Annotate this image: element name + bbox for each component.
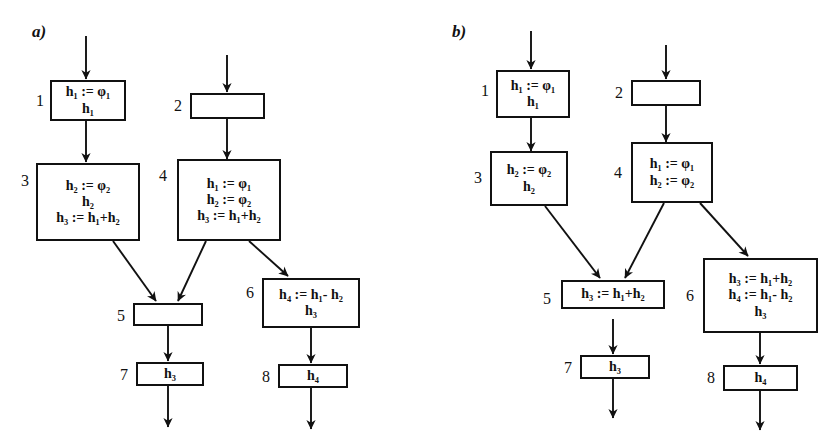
node-a4-line-2: h₂ := φ₂ xyxy=(207,192,252,208)
node-b1[interactable]: h₁ := φ₁ h₁ xyxy=(496,70,570,118)
node-index-b2: 2 xyxy=(615,85,623,101)
node-index-a1: 1 xyxy=(36,93,44,109)
node-a3-line-3: h₃ := h₁+h₂ xyxy=(56,210,120,226)
node-index-a2: 2 xyxy=(174,98,182,114)
node-b7-line-1: h₃ xyxy=(609,359,621,375)
node-index-a5: 5 xyxy=(117,308,125,324)
node-a5[interactable] xyxy=(133,303,203,326)
node-a6-line-2: h₃ xyxy=(305,303,317,319)
node-a8[interactable]: h₄ xyxy=(278,364,348,388)
node-b3-line-2: h₂ xyxy=(523,179,535,195)
node-b4[interactable]: h₁ := φ₁ h₂ := φ₂ xyxy=(631,142,713,203)
node-index-b6: 6 xyxy=(686,288,694,304)
edge-3-to-5 xyxy=(113,241,156,301)
node-b6[interactable]: h₃ := h₁+h₂ h₄ := h₁- h₂ h₃ xyxy=(703,258,818,333)
node-index-a3: 3 xyxy=(21,173,29,189)
node-a8-line-1: h₄ xyxy=(307,368,319,384)
node-index-b4: 4 xyxy=(614,165,622,181)
node-b6-line-2: h₄ := h₁- h₂ xyxy=(729,287,793,303)
node-index-a7: 7 xyxy=(120,367,128,383)
node-a4[interactable]: h₁ := φ₁ h₂ := φ₂ h₃ := h₁+h₂ xyxy=(177,159,281,241)
node-b4-line-2: h₂ := φ₂ xyxy=(650,173,695,189)
node-a1[interactable]: h₁ := φ₁ h₁ xyxy=(50,80,126,121)
node-a3[interactable]: h₂ := φ₂ h₂ h₃ := h₁+h₂ xyxy=(36,163,140,241)
node-b3-line-1: h₂ := φ₂ xyxy=(507,162,552,178)
node-b5-line-1: h₃ := h₁+h₂ xyxy=(581,286,645,302)
node-b1-line-1: h₁ := φ₁ xyxy=(511,78,556,94)
node-index-b7: 7 xyxy=(564,360,572,376)
node-index-b5: 5 xyxy=(543,291,551,307)
node-index-b3: 3 xyxy=(474,170,482,186)
node-b8[interactable]: h₄ xyxy=(723,365,798,391)
node-b2[interactable] xyxy=(631,80,701,106)
edge-4-to-5 xyxy=(178,241,206,301)
node-a2[interactable] xyxy=(190,93,265,119)
node-b5[interactable]: h₃ := h₁+h₂ xyxy=(561,280,665,309)
node-b7[interactable]: h₃ xyxy=(580,355,650,379)
node-b6-line-1: h₃ := h₁+h₂ xyxy=(729,271,793,287)
node-b4-line-1: h₁ := φ₁ xyxy=(650,156,695,172)
node-a1-line-2: h₁ xyxy=(82,101,94,117)
node-index-a6: 6 xyxy=(246,285,254,301)
node-b6-line-3: h₃ xyxy=(755,304,767,320)
edge-b-3-to-5 xyxy=(545,206,600,278)
edge-b-4-to-6 xyxy=(700,203,748,256)
node-index-b8: 8 xyxy=(707,370,715,386)
node-a6[interactable]: h₄ := h₁- h₂ h₃ xyxy=(262,278,360,328)
node-a6-line-1: h₄ := h₁- h₂ xyxy=(279,287,343,303)
node-index-b1: 1 xyxy=(481,83,489,99)
node-a4-line-3: h₃ := h₁+h₂ xyxy=(197,208,261,224)
node-a4-line-1: h₁ := φ₁ xyxy=(207,176,252,192)
node-a7-line-1: h₃ xyxy=(164,366,176,382)
node-index-a8: 8 xyxy=(262,369,270,385)
node-a7[interactable]: h₃ xyxy=(136,362,204,386)
node-a3-line-1: h₂ := φ₂ xyxy=(66,178,111,194)
node-b8-line-1: h₄ xyxy=(755,370,767,386)
figure-canvas: a) b) xyxy=(0,0,840,445)
edge-b-4-to-5 xyxy=(625,203,664,278)
node-a3-line-2: h₂ xyxy=(82,194,94,210)
node-b3[interactable]: h₂ := φ₂ h₂ xyxy=(490,151,568,206)
edge-4-to-6 xyxy=(249,241,288,276)
node-b1-line-2: h₁ xyxy=(527,94,539,110)
node-index-a4: 4 xyxy=(159,168,167,184)
node-a1-line-1: h₁ := φ₁ xyxy=(66,84,111,100)
